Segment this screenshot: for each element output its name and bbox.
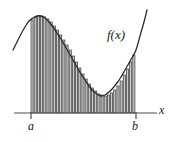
riemann-bar bbox=[120, 81, 122, 113]
riemann-bar bbox=[44, 17, 46, 113]
lower-limit-label: a bbox=[28, 120, 34, 132]
riemann-bar bbox=[126, 69, 128, 113]
riemann-bar bbox=[82, 74, 84, 113]
riemann-bar bbox=[47, 19, 49, 113]
riemann-bar bbox=[69, 50, 71, 113]
riemann-bar bbox=[56, 30, 58, 113]
riemann-bar bbox=[37, 16, 39, 113]
function-label: f(x) bbox=[107, 28, 125, 41]
riemann-bar bbox=[72, 56, 74, 113]
riemann-bar bbox=[123, 75, 125, 113]
riemann-bar bbox=[107, 95, 109, 113]
riemann-bar bbox=[31, 20, 33, 113]
riemann-bar bbox=[104, 96, 106, 113]
riemann-bar bbox=[34, 17, 36, 113]
riemann-bar bbox=[50, 22, 52, 113]
riemann-bar bbox=[101, 95, 103, 113]
riemann-bar bbox=[111, 93, 113, 113]
x-axis-label: x bbox=[159, 104, 164, 116]
riemann-bar bbox=[114, 90, 116, 113]
figure-canvas bbox=[0, 0, 171, 142]
riemann-bar bbox=[79, 68, 81, 113]
riemann-bar bbox=[98, 94, 100, 113]
riemann-bar bbox=[85, 79, 87, 113]
riemann-bar bbox=[63, 40, 65, 113]
riemann-bar bbox=[53, 26, 55, 113]
riemann-bar bbox=[130, 62, 132, 113]
upper-limit-label: b bbox=[132, 120, 138, 132]
riemann-bar bbox=[66, 45, 68, 113]
riemann-bar bbox=[41, 16, 43, 113]
riemann-bar bbox=[117, 86, 119, 113]
riemann-bar bbox=[76, 62, 78, 113]
riemann-bar bbox=[133, 55, 135, 113]
riemann-bar bbox=[60, 35, 62, 113]
riemann-sum-figure: f(x) a b x bbox=[0, 0, 171, 142]
